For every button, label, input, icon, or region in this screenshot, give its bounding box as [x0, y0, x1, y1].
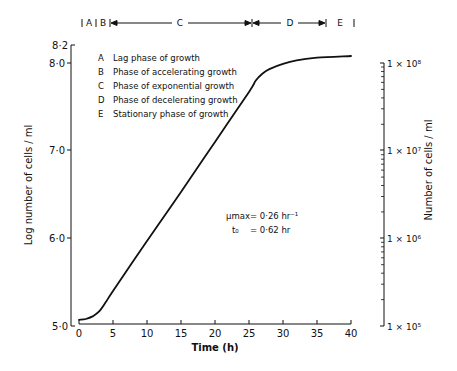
y-tick-5-0: 5·0 — [52, 321, 68, 332]
phase-legend: A Lag phase of growth B Phase of acceler… — [98, 53, 238, 119]
legend-label-c: Phase of exponential growth — [113, 81, 234, 91]
x-tick-35: 35 — [311, 328, 324, 339]
phase-label-b: B — [100, 18, 106, 28]
phase-label-e: E — [337, 18, 343, 28]
x-tick-25: 25 — [243, 328, 256, 339]
x-tick-0: 0 — [76, 328, 82, 339]
y-right-tick-1e7: 1 × 10⁷ — [387, 146, 421, 156]
y-axis-right-label: Number of cells / ml — [423, 120, 434, 221]
growth-curve-chart: A B C D E 8·2 8·0 7·0 6·0 5·0 Log number… — [0, 0, 457, 371]
y-axis-right — [380, 63, 384, 326]
y-axis-label: Log number of cells / ml — [23, 125, 34, 246]
mumax-label: μmax — [226, 211, 250, 221]
kinetics-annotation: μmax = 0·26 hr⁻¹ t₀ = 0·62 hr — [226, 211, 298, 235]
legend-key-a: A — [98, 53, 104, 63]
x-tick-15: 15 — [175, 328, 188, 339]
legend-label-b: Phase of accelerating growth — [113, 67, 237, 77]
legend-label-d: Phase of decelerating growth — [113, 95, 238, 105]
legend-label-e: Stationary phase of growth — [113, 109, 228, 119]
phase-label-d: D — [287, 18, 294, 28]
y-right-tick-1e8: 1 × 10⁸ — [387, 59, 421, 69]
x-tick-20: 20 — [209, 328, 222, 339]
phase-label-a: A — [86, 18, 93, 28]
x-axis — [79, 320, 351, 324]
t0-label: t₀ — [232, 225, 239, 235]
phase-label-c: C — [177, 18, 183, 28]
legend-key-c: C — [98, 81, 104, 91]
phase-bar — [82, 19, 354, 27]
legend-key-b: B — [98, 67, 104, 77]
y-tick-6-0: 6·0 — [49, 233, 65, 244]
y-right-tick-1e6: 1 × 10⁶ — [387, 234, 421, 244]
y-tick-8-2: 8·2 — [52, 40, 68, 51]
y-axis-left — [67, 45, 75, 326]
y-tick-8-0: 8·0 — [49, 58, 65, 69]
y-right-tick-1e5: 1 × 10⁵ — [387, 322, 421, 332]
t0-value: = 0·62 hr — [250, 225, 291, 235]
legend-key-e: E — [98, 109, 103, 119]
x-tick-5: 5 — [110, 328, 116, 339]
legend-key-d: D — [98, 95, 105, 105]
x-tick-10: 10 — [141, 328, 154, 339]
x-tick-40: 40 — [345, 328, 358, 339]
mumax-value: = 0·26 hr⁻¹ — [250, 211, 298, 221]
x-tick-30: 30 — [277, 328, 290, 339]
legend-label-a: Lag phase of growth — [113, 53, 200, 63]
y-tick-7-0: 7·0 — [49, 145, 65, 156]
x-axis-label: Time (h) — [191, 342, 238, 353]
